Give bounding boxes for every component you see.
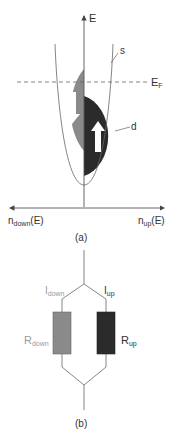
d-leader-line [115,127,130,131]
spin-dos-diagram: E s d EF ndown(E) nup(E) (a) Idown Iup R… [0,0,175,436]
r-up-label: Rup [121,334,137,348]
i-up-label: Iup [104,285,115,298]
panel-a: E s d EF ndown(E) nup(E) (a) [8,12,165,243]
r-down-label: Rdown [24,334,49,347]
i-down-label: Idown [45,285,65,297]
r-down-resistor [53,312,71,354]
panel-b: Idown Iup Rdown Rup (b) [24,250,137,429]
n-down-axis-label: ndown(E) [8,215,44,227]
fermi-level-label: EF [151,76,163,89]
d-band-label: d [131,121,137,132]
panel-b-caption: (b) [75,418,87,429]
r-up-resistor [97,312,115,354]
s-band-label: s [120,45,125,56]
energy-axis-label: E [89,12,96,24]
panel-a-caption: (a) [75,232,87,243]
n-up-axis-label: nup(E) [138,215,165,228]
